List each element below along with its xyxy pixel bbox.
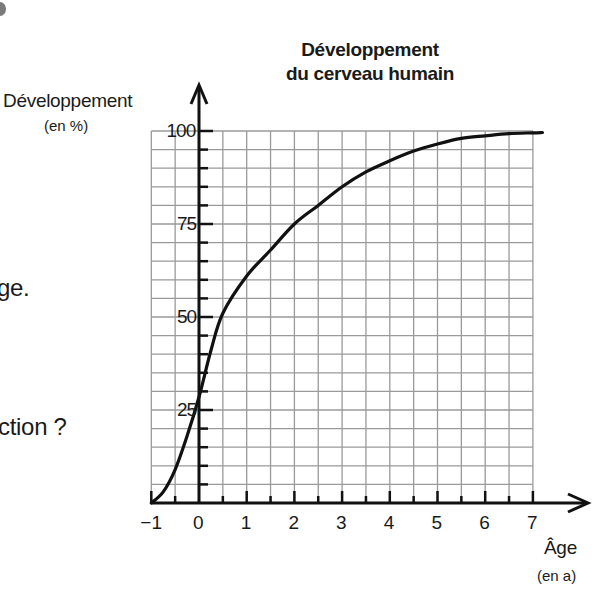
x-tick-label: 7 — [527, 512, 538, 534]
x-tick-label: 0 — [193, 512, 204, 534]
x-tick-label: 6 — [479, 512, 490, 534]
x-tick-label: 1 — [241, 512, 252, 534]
x-tick-label: 4 — [384, 512, 395, 534]
chart-plot — [0, 0, 616, 594]
y-tick-label: 75 — [177, 213, 196, 235]
x-tick-label: −1 — [140, 512, 162, 534]
y-tick-label: 50 — [177, 306, 196, 328]
x-tick-label: 5 — [432, 512, 443, 534]
y-tick-label: 100 — [167, 120, 196, 142]
y-tick-label: 25 — [177, 399, 196, 421]
x-tick-label: 2 — [288, 512, 299, 534]
x-tick-label: 3 — [336, 512, 347, 534]
